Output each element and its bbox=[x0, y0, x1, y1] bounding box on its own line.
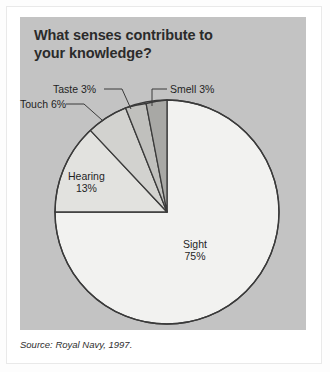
chart-page: What senses contribute to your knowledge… bbox=[0, 0, 330, 372]
pie-label-sight-value: 75% bbox=[183, 250, 207, 262]
chart-panel: What senses contribute to your knowledge… bbox=[20, 17, 306, 330]
page-title: What senses contribute to your knowledge… bbox=[34, 27, 284, 62]
source-caption: Source: Royal Navy, 1997. bbox=[20, 339, 132, 350]
pie-label-taste-text: Taste 3% bbox=[53, 83, 96, 95]
pie-label-touch: Touch 6% bbox=[20, 98, 66, 110]
pie-label-hearing: Hearing 13% bbox=[68, 170, 105, 194]
chart-title-line-1: What senses contribute to bbox=[34, 27, 284, 45]
pie-label-smell: Smell 3% bbox=[170, 83, 214, 95]
pie-label-smell-text: Smell 3% bbox=[170, 83, 214, 95]
pie-label-hearing-name: Hearing bbox=[68, 170, 105, 182]
pie-label-sight-name: Sight bbox=[183, 238, 207, 250]
pie-label-sight: Sight 75% bbox=[183, 238, 207, 262]
pie-label-touch-text: Touch 6% bbox=[20, 98, 66, 110]
pie-label-hearing-value: 13% bbox=[68, 182, 105, 194]
chart-title-line-2: your knowledge? bbox=[34, 45, 284, 63]
pie-label-taste: Taste 3% bbox=[53, 83, 96, 95]
